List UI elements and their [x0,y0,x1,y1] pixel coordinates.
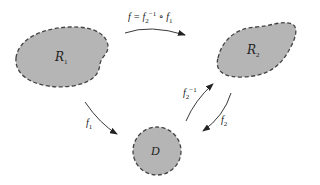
label-f2-sub: 2 [224,120,228,128]
label-r2-text: R [247,43,256,57]
label-d: D [151,144,160,159]
label-f: f = f2−1 ∘ f1 [128,10,172,25]
label-d-text: D [151,144,160,158]
label-f2inv-sup: −1 [189,86,196,94]
label-f2-inverse: f2−1 [183,86,197,101]
arrow-f [125,29,185,35]
label-f2inv-sub: 2 [186,93,190,101]
label-f-tail-sub: 1 [169,17,173,25]
label-r1: R1 [55,50,68,66]
label-f-sub: 2 [145,17,149,25]
label-f1: f1 [86,117,92,131]
label-f-tail: ∘ f [156,11,169,22]
label-r1-subscript: 1 [64,58,68,66]
label-r1-text: R [55,50,64,64]
label-f1-sub: 1 [89,123,93,131]
label-f-main: f = f [128,11,145,22]
label-f2: f2 [221,114,227,128]
label-r2-subscript: 2 [256,51,260,59]
label-r2: R2 [247,43,260,59]
